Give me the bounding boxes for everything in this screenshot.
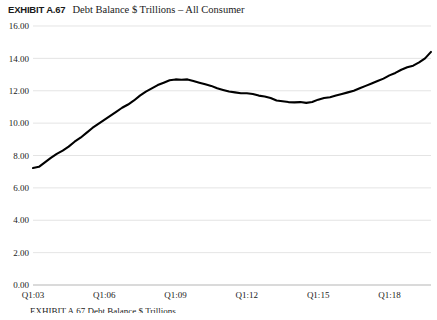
x-axis-tick-label: Q1:18 — [378, 290, 401, 300]
y-axis-tick-label: 8.00 — [13, 151, 29, 161]
y-axis-tick-label: 14.00 — [9, 54, 30, 64]
line-chart: 0.002.004.006.008.0010.0012.0014.0016.00… — [0, 20, 437, 300]
y-axis-tick-label: 12.00 — [9, 86, 30, 96]
y-axis-tick-label: 10.00 — [9, 118, 30, 128]
y-axis-tick-label: 2.00 — [13, 248, 29, 258]
chart-header: EXHIBIT A.67 Debt Balance $ Trillions – … — [8, 4, 245, 15]
exhibit-label: EXHIBIT A.67 — [8, 4, 65, 15]
x-axis-tick-label: Q1:03 — [22, 290, 45, 300]
y-axis-tick-label: 0.00 — [13, 280, 29, 290]
y-axis-tick-label: 6.00 — [13, 183, 29, 193]
x-axis-tick-label: Q1:06 — [93, 290, 116, 300]
chart-page: EXHIBIT A.67 Debt Balance $ Trillions – … — [0, 0, 437, 320]
data-series-line — [33, 52, 431, 168]
exhibit-title: Debt Balance $ Trillions – All Consumer — [72, 4, 244, 15]
plot-area: 0.002.004.006.008.0010.0012.0014.0016.00… — [0, 20, 437, 300]
y-axis-tick-label: 16.00 — [9, 21, 30, 31]
footer-band: EXHIBIT A.67 Debt Balance $ Trillions — [0, 306, 437, 320]
x-axis-tick-label: Q1:15 — [307, 290, 330, 300]
footer-clip-mask — [0, 313, 437, 320]
x-axis-tick-label: Q1:12 — [236, 290, 259, 300]
y-axis-tick-label: 4.00 — [13, 215, 29, 225]
x-axis-tick-label: Q1:09 — [164, 290, 187, 300]
